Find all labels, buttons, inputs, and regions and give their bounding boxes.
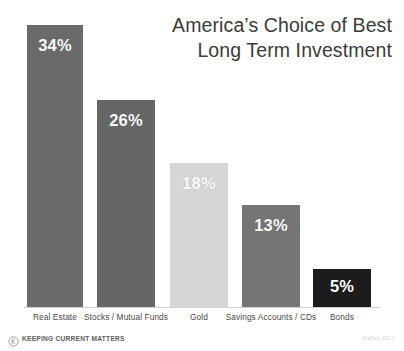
bar-group-stocks-mutual-funds: 26% xyxy=(97,100,155,308)
chart-figure: America’s Choice of Best Long Term Inves… xyxy=(0,0,404,351)
bar-value-bonds: 5% xyxy=(313,277,371,296)
bar-value-stocks-mutual-funds: 26% xyxy=(97,111,155,130)
x-axis-line xyxy=(24,307,380,308)
bar-stocks-mutual-funds[interactable] xyxy=(97,100,155,308)
bar-value-real-estate: 34% xyxy=(27,36,83,55)
bar-group-real-estate: 34% xyxy=(27,25,83,308)
circle-k-logo-icon xyxy=(8,333,19,344)
source-credit: Gallup 2017 xyxy=(363,335,395,341)
category-label-stocks-mutual-funds: Stocks / Mutual Funds xyxy=(82,312,170,322)
category-label-savings-accounts-cds: Savings Accounts / CDs xyxy=(225,312,317,322)
bar-group-savings-accounts-cds: 13% xyxy=(242,205,300,308)
bar-group-gold: 18% xyxy=(170,163,228,308)
brand-mark: Keeping Current Matters xyxy=(8,333,125,344)
brand-name: Keeping Current Matters xyxy=(22,335,125,342)
bar-value-gold: 18% xyxy=(170,174,228,193)
bar-group-bonds: 5% xyxy=(313,269,371,308)
category-label-bonds: Bonds xyxy=(312,312,372,322)
bar-value-savings-accounts-cds: 13% xyxy=(242,216,300,235)
bar-real-estate[interactable] xyxy=(27,25,83,308)
category-label-gold: Gold xyxy=(169,312,229,322)
category-axis-labels: Real Estate Stocks / Mutual Funds Gold S… xyxy=(0,312,404,328)
footer-bar: Keeping Current Matters Gallup 2017 xyxy=(0,330,404,351)
plot-area: 34% 26% 18% 13% 5% xyxy=(0,0,404,308)
